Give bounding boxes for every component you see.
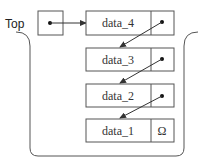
node-data-label: data_1 — [102, 124, 134, 138]
node-data-label: data_4 — [102, 16, 134, 30]
node-data-2: data_2 — [86, 84, 174, 107]
top-label: Top — [5, 17, 25, 31]
stack-diagram: Top data_4 data_3 data_2 data_1 Ω — [0, 0, 204, 163]
node-data-label: data_2 — [102, 89, 134, 103]
node-data-1: data_1 Ω — [86, 119, 174, 142]
node-data-label: data_3 — [102, 53, 134, 67]
null-symbol: Ω — [158, 124, 167, 138]
